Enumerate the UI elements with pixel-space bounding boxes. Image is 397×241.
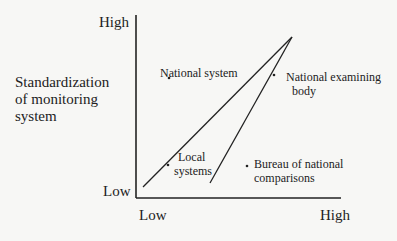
x-axis-low-label: Low <box>139 208 167 224</box>
point-national-examining-body <box>273 74 276 77</box>
x-axis-high-label: High <box>320 208 350 224</box>
label-bureau-national-comparisons: Bureau of national comparisons <box>254 157 343 185</box>
label-national-examining-body: National examining body <box>286 70 381 98</box>
y-axis-low-label: Low <box>103 184 131 200</box>
y-axis-title-line-2: of monitoring <box>15 91 135 108</box>
y-axis-high-label: High <box>99 15 129 31</box>
y-axis-title: Standardization of monitoring system <box>15 74 135 125</box>
point-local-systems <box>167 164 170 167</box>
y-axis-title-line-1: Standardization <box>15 74 135 91</box>
label-national-system: National system <box>160 66 238 80</box>
label-line: Bureau of national <box>254 157 343 171</box>
y-axis-title-line-3: system <box>15 108 135 125</box>
point-bureau-national-comparisons <box>246 165 249 168</box>
label-line: systems <box>174 164 212 178</box>
label-local-systems: Local systems <box>174 150 212 178</box>
label-line: comparisons <box>254 171 343 185</box>
label-line: Local <box>174 150 212 164</box>
label-line: National examining <box>286 70 381 84</box>
label-line: body <box>286 84 381 98</box>
